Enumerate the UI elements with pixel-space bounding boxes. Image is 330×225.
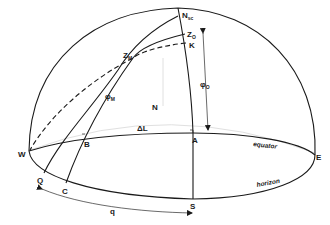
label-s: S <box>190 202 196 211</box>
label-phi-m: φM <box>105 92 115 102</box>
circle-nsc-zm-q <box>44 16 178 173</box>
label-horizon: horizon <box>256 177 280 188</box>
label-n: N <box>152 103 158 112</box>
label-w: W <box>18 150 26 159</box>
label-a: A <box>192 136 198 145</box>
label-b: B <box>84 140 90 149</box>
label-delta-l: ΔL <box>137 124 148 133</box>
horizon-curve <box>29 151 315 199</box>
label-c: C <box>62 187 68 196</box>
label-k: K <box>189 41 195 50</box>
label-z-o: ZO <box>187 30 196 40</box>
label-equator: equator <box>253 140 278 151</box>
label-n-sc: Nsc <box>182 11 194 21</box>
celestial-sphere-diagram: Nsc ZO K ZM φM φO N ΔL A B W E Q C S q e… <box>0 0 330 225</box>
label-phi-o: φO <box>200 80 210 90</box>
label-q: Q <box>37 176 43 185</box>
label-e: E <box>316 153 322 162</box>
label-q-arc: q <box>110 207 115 216</box>
